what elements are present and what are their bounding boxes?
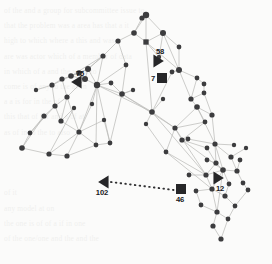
graph-node[interactable]	[115, 38, 120, 43]
graph-marker-7[interactable]	[157, 73, 167, 83]
graph-edge	[49, 154, 67, 156]
graph-node[interactable]	[222, 193, 227, 198]
graph-edge	[175, 107, 197, 128]
graph-edge	[175, 128, 206, 175]
graph-node[interactable]	[188, 96, 193, 101]
graph-node[interactable]	[131, 88, 135, 92]
graph-node[interactable]	[161, 97, 165, 101]
graph-node[interactable]	[76, 129, 81, 134]
graph-edge	[103, 41, 118, 56]
graph-node[interactable]	[218, 236, 223, 241]
graph-node[interactable]	[194, 104, 200, 110]
graph-node[interactable]	[94, 143, 99, 148]
graph-node[interactable]	[90, 102, 94, 106]
graph-edge	[22, 116, 44, 148]
graph-node[interactable]	[28, 131, 33, 136]
graph-node[interactable]	[214, 209, 219, 214]
graph-node[interactable]	[64, 153, 69, 158]
marker-label-12: 12	[216, 184, 224, 193]
graph-edge	[49, 132, 79, 154]
graph-node[interactable]	[100, 53, 105, 58]
graph-node[interactable]	[160, 30, 166, 36]
graph-edge	[110, 94, 122, 143]
graph-node[interactable]	[58, 118, 63, 123]
graph-edge	[67, 97, 79, 132]
graph-node[interactable]	[19, 145, 25, 151]
graph-node[interactable]	[205, 146, 210, 151]
graph-edge	[52, 85, 55, 106]
graph-edge	[231, 148, 246, 157]
graph-node[interactable]	[119, 91, 125, 97]
graph-node[interactable]	[176, 67, 182, 73]
marker-label-75: 75	[76, 69, 84, 78]
graph-edge	[62, 79, 67, 97]
graph-node[interactable]	[187, 173, 192, 178]
graph-node[interactable]	[227, 182, 232, 187]
graph-node[interactable]	[220, 167, 226, 173]
graph-node[interactable]	[203, 120, 208, 125]
graph-node[interactable]	[179, 137, 184, 142]
marker-label-7: 7	[151, 74, 155, 83]
graph-node[interactable]	[139, 15, 144, 20]
graph-node[interactable]	[149, 109, 155, 115]
graph-node[interactable]	[172, 125, 177, 130]
graph-node[interactable]	[209, 112, 214, 117]
graph-edge	[163, 33, 179, 70]
graph-node[interactable]	[49, 82, 54, 87]
graph-node[interactable]	[238, 158, 243, 163]
graph-node[interactable]	[195, 76, 200, 81]
graph-node[interactable]	[46, 151, 51, 156]
graph-node[interactable]	[199, 203, 204, 208]
graph-node[interactable]	[52, 103, 57, 108]
graph-node[interactable]	[226, 217, 231, 222]
graph-node[interactable]	[244, 146, 248, 150]
graph-node[interactable]	[241, 181, 246, 186]
graph-node[interactable]	[212, 141, 217, 146]
graph-node[interactable]	[72, 106, 76, 110]
graph-node[interactable]	[102, 118, 106, 122]
graph-edge	[96, 85, 97, 145]
graph-node[interactable]	[144, 122, 148, 126]
graph-node[interactable]	[85, 66, 91, 72]
graph-node[interactable]	[177, 45, 182, 50]
graph-edge	[146, 15, 163, 33]
graph-node[interactable]	[202, 82, 207, 87]
graph-node[interactable]	[108, 141, 113, 146]
graph-node[interactable]	[143, 39, 148, 44]
graph-node[interactable]	[68, 73, 74, 79]
graph-edge	[122, 94, 175, 128]
dotted-edge	[111, 182, 174, 190]
graph-edge	[49, 108, 74, 154]
graph-node[interactable]	[109, 81, 114, 86]
graph-edge	[30, 106, 55, 133]
graph-node[interactable]	[186, 137, 191, 142]
graph-node[interactable]	[210, 223, 215, 228]
graph-node[interactable]	[94, 82, 100, 88]
marker-label-46: 46	[176, 195, 184, 204]
graph-canvas	[0, 0, 272, 264]
graph-node[interactable]	[233, 204, 238, 209]
graph-node[interactable]	[203, 172, 208, 177]
dotted-path	[111, 182, 174, 190]
marker-label-102: 102	[96, 188, 108, 197]
graph-node[interactable]	[234, 168, 239, 173]
graph-node[interactable]	[246, 188, 251, 193]
graph-node[interactable]	[164, 150, 169, 155]
graph-node[interactable]	[41, 113, 46, 118]
graph-node[interactable]	[202, 91, 207, 96]
graph-node[interactable]	[170, 70, 175, 75]
graph-node[interactable]	[124, 63, 129, 68]
graph-node[interactable]	[228, 154, 233, 159]
graph-node[interactable]	[64, 94, 69, 99]
graph-node[interactable]	[209, 186, 214, 191]
graph-node[interactable]	[59, 76, 64, 81]
graph-node[interactable]	[213, 160, 218, 165]
graph-node[interactable]	[131, 30, 137, 36]
graph-node[interactable]	[205, 158, 210, 163]
graph-node[interactable]	[232, 143, 236, 147]
graph-edge	[118, 41, 126, 65]
graph-node[interactable]	[34, 88, 38, 92]
graph-node[interactable]	[194, 189, 199, 194]
graph-marker-46[interactable]	[176, 184, 186, 194]
graph-edge	[166, 128, 175, 152]
